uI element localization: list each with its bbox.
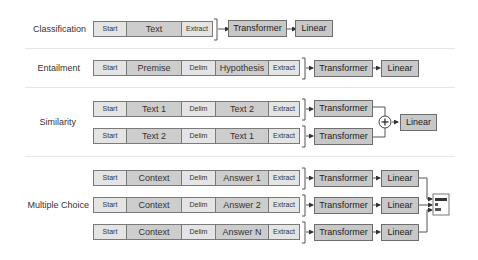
token-delim: Delim xyxy=(181,224,216,240)
module-linear: Linear xyxy=(381,224,419,241)
token-start: Start xyxy=(93,60,127,76)
module-linear: Linear xyxy=(381,170,419,187)
module-transformer: Transformer xyxy=(314,128,373,145)
module-linear: Linear xyxy=(381,197,419,214)
task-label-similarity: Similarity xyxy=(39,117,76,127)
token-text: Text xyxy=(126,21,182,37)
task-label-classification: Classification xyxy=(33,24,86,34)
token-start: Start xyxy=(93,21,127,37)
token-text-1: Text 1 xyxy=(126,101,182,117)
token-delim: Delim xyxy=(181,170,216,186)
token-extract: Extract xyxy=(181,21,213,37)
token-context: Context xyxy=(126,197,182,213)
token-hypothesis: Hypothesis xyxy=(215,60,269,76)
module-linear: Linear xyxy=(381,60,419,77)
token-delim: Delim xyxy=(181,60,216,76)
plus-circle-icon xyxy=(379,116,391,128)
module-linear: Linear xyxy=(295,20,333,37)
token-premise: Premise xyxy=(126,60,182,76)
module-transformer: Transformer xyxy=(314,224,373,241)
task-label-multiple-choice: Multiple Choice xyxy=(27,200,89,210)
token-extract: Extract xyxy=(268,101,300,117)
module-transformer: Transformer xyxy=(314,170,373,187)
token-text-2: Text 2 xyxy=(126,128,182,144)
softmax-bars-icon xyxy=(433,194,449,215)
token-start: Start xyxy=(93,101,127,117)
token-extract: Extract xyxy=(268,197,300,213)
token-start: Start xyxy=(93,224,127,240)
token-context: Context xyxy=(126,170,182,186)
module-linear: Linear xyxy=(400,114,437,131)
token-extract: Extract xyxy=(268,128,300,144)
task-label-entailment: Entailment xyxy=(37,63,80,73)
token-context: Context xyxy=(126,224,182,240)
token-start: Start xyxy=(93,197,127,213)
token-delim: Delim xyxy=(181,101,216,117)
token-extract: Extract xyxy=(268,224,300,240)
module-transformer: Transformer xyxy=(228,20,287,37)
token-delim: Delim xyxy=(181,197,216,213)
token-answer-1: Answer 1 xyxy=(215,170,269,186)
token-start: Start xyxy=(93,128,127,144)
token-start: Start xyxy=(93,170,127,186)
module-transformer: Transformer xyxy=(314,197,373,214)
token-extract: Extract xyxy=(268,60,300,76)
token-text-2: Text 2 xyxy=(215,101,269,117)
module-transformer: Transformer xyxy=(314,60,373,77)
token-text-1: Text 1 xyxy=(215,128,269,144)
token-answer-n: Answer N xyxy=(215,224,269,240)
module-transformer: Transformer xyxy=(314,100,373,117)
token-answer-2: Answer 2 xyxy=(215,197,269,213)
token-delim: Delim xyxy=(181,128,216,144)
token-extract: Extract xyxy=(268,170,300,186)
